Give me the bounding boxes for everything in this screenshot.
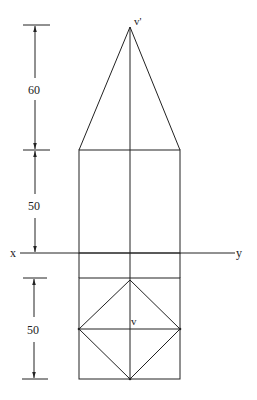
- projectors: [79, 253, 180, 278]
- dimension-label-60: 60: [28, 83, 40, 97]
- drawing-canvas: v' v x y 60 50 50: [0, 0, 257, 400]
- dimension-label-50-elevation: 50: [28, 199, 40, 213]
- dimension-label-50-plan: 50: [27, 323, 39, 337]
- apex-elevation-label: v': [134, 15, 142, 27]
- y-label: y: [236, 246, 242, 260]
- x-label: x: [10, 246, 16, 260]
- orthographic-drawing: v' v x y 60 50 50: [0, 0, 257, 400]
- apex-plan-label: v: [131, 315, 137, 327]
